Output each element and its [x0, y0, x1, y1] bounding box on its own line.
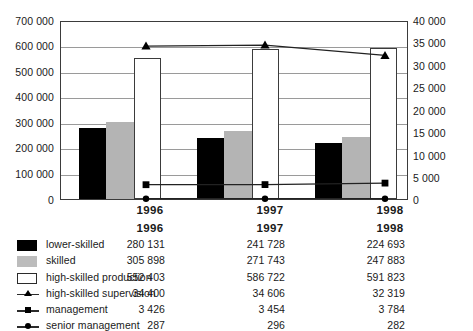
legend-swatch-lower-skilled [17, 240, 39, 251]
right-axis-tick-40000: 40 000 [413, 16, 473, 27]
right-axis-tick-35000: 35 000 [413, 38, 473, 49]
black-square-icon [17, 240, 37, 251]
legend-row-skilled: skilled 305 898 271 743 247 883 [0, 254, 473, 270]
legend-value-senior-management-1996: 287 [95, 319, 165, 331]
legend-value-high-skilled-supervision-1996: 34 400 [95, 287, 165, 299]
legend-header-1998: 1998 [360, 222, 420, 234]
bar-high-skilled-production-1997 [252, 49, 279, 199]
gray-square-icon [17, 256, 37, 267]
left-axis-tick-200000: 200 000 [0, 143, 54, 154]
bar-lower-skilled-1998 [315, 143, 342, 200]
legend-value-high-skilled-production-1997: 586 722 [215, 271, 285, 283]
category-label-1997: 1997 [240, 204, 300, 216]
white-square-outline-icon [17, 273, 37, 284]
right-axis-tick-30000: 30 000 [413, 61, 473, 72]
legend-swatch-management [17, 305, 39, 316]
legend-value-high-skilled-production-1998: 591 823 [335, 271, 405, 283]
bar-lower-skilled-1997 [197, 138, 224, 199]
legend-header-row: 1996 1997 1998 [0, 222, 473, 238]
left-axis-tick-300000: 300 000 [0, 118, 54, 129]
legend-value-skilled-1998: 247 883 [335, 254, 405, 266]
bar-skilled-1997 [224, 131, 252, 199]
legend-value-senior-management-1997: 296 [215, 319, 285, 331]
legend-value-lower-skilled-1996: 280 131 [95, 238, 165, 250]
right-axis-tick-10000: 10 000 [413, 151, 473, 162]
legend-value-lower-skilled-1998: 224 693 [335, 238, 405, 250]
legend-value-high-skilled-supervision-1998: 32 319 [335, 287, 405, 299]
legend-swatch-skilled [17, 256, 39, 267]
legend-value-high-skilled-production-1996: 552 403 [95, 271, 165, 283]
legend-table: 1996 1997 1998 lower-skilled 280 131 241… [0, 222, 473, 331]
legend-row-high-skilled-supervision: high-skilled supervision 34 400 34 606 3… [0, 287, 473, 303]
legend-value-high-skilled-supervision-1997: 34 606 [215, 287, 285, 299]
legend-row-senior-management: senior management 287 296 282 [0, 319, 473, 331]
right-axis-tick-20000: 20 000 [413, 106, 473, 117]
category-label-1996: 1996 [120, 204, 180, 216]
legend-value-management-1997: 3 454 [215, 303, 285, 315]
chart-container: 700 000 600 000 500 000 400 000 300 000 … [0, 0, 473, 331]
left-axis-tick-500000: 500 000 [0, 67, 54, 78]
square-marker-icon [25, 307, 31, 313]
bar-lower-skilled-1996 [79, 128, 106, 199]
gridline-600000 [61, 47, 407, 48]
bar-high-skilled-production-1996 [134, 58, 161, 199]
legend-swatch-high-skilled-production [17, 273, 39, 284]
right-axis-tick-15000: 15 000 [413, 128, 473, 139]
plot-area [60, 21, 408, 200]
legend-swatch-high-skilled-supervision [17, 289, 39, 300]
legend-value-senior-management-1998: 282 [335, 319, 405, 331]
right-axis-tick-25000: 25 000 [413, 83, 473, 94]
legend-row-lower-skilled: lower-skilled 280 131 241 728 224 693 [0, 238, 473, 254]
right-axis-tick-5000: 5 000 [413, 173, 473, 184]
bar-high-skilled-production-1998 [370, 48, 397, 199]
legend-header-1996: 1996 [120, 222, 180, 234]
legend-value-skilled-1997: 271 743 [215, 254, 285, 266]
left-axis-tick-400000: 400 000 [0, 92, 54, 103]
gridline-500000 [61, 73, 407, 74]
legend-value-skilled-1996: 305 898 [95, 254, 165, 266]
legend-value-management-1998: 3 784 [335, 303, 405, 315]
bar-skilled-1996 [106, 122, 134, 199]
right-axis-tick-0: 0 [413, 195, 473, 206]
gridline-400000 [61, 98, 407, 99]
legend-value-management-1996: 3 426 [95, 303, 165, 315]
dot-marker-icon [25, 323, 31, 329]
legend-value-lower-skilled-1997: 241 728 [215, 238, 285, 250]
legend-swatch-senior-management [17, 321, 39, 331]
category-label-1998: 1998 [360, 204, 420, 216]
left-axis-tick-600000: 600 000 [0, 41, 54, 52]
bar-skilled-1998 [342, 137, 370, 199]
legend-header-1997: 1997 [240, 222, 300, 234]
triangle-marker-icon [24, 290, 32, 296]
legend-row-management: management 3 426 3 454 3 784 [0, 303, 473, 319]
left-axis-tick-0: 0 [0, 195, 54, 206]
legend-row-high-skilled-production: high-skilled production 552 403 586 722 … [0, 271, 473, 287]
left-axis-tick-700000: 700 000 [0, 16, 54, 27]
left-axis-tick-100000: 100 000 [0, 169, 54, 180]
legend-label-skilled: skilled [46, 254, 76, 266]
